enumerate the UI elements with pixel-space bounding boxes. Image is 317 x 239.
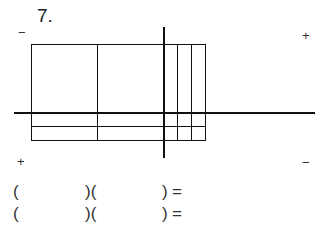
middle-parens: )( — [85, 182, 96, 202]
open-paren: ( — [13, 204, 19, 224]
equation-row: ( )( ) = — [0, 182, 317, 202]
equals-sign: = — [172, 182, 182, 202]
sign-top-right: + — [302, 29, 310, 43]
equation-row: ( )( ) = — [0, 204, 317, 224]
open-paren: ( — [13, 182, 19, 202]
close-paren: ) — [162, 204, 168, 224]
problem-number: 7. — [37, 5, 53, 27]
close-paren: ) — [162, 182, 168, 202]
row-divider — [31, 126, 205, 127]
equals-sign: = — [172, 204, 182, 224]
sign-top-left: − — [18, 26, 26, 40]
vertical-axis-line — [163, 27, 165, 158]
sign-bottom-right: − — [302, 156, 310, 170]
sign-bottom-left: + — [17, 155, 25, 169]
middle-parens: )( — [85, 204, 96, 224]
